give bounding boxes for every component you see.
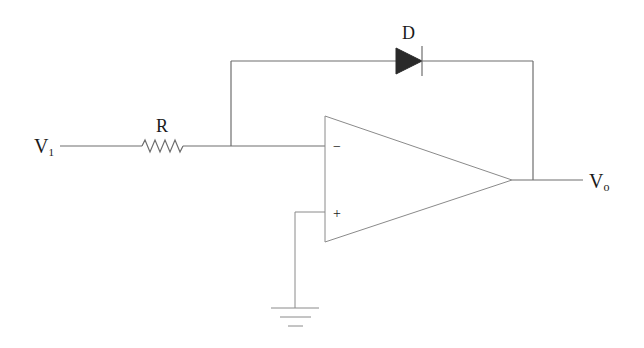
op-amp [325, 116, 512, 242]
diode-label: D [402, 23, 415, 43]
resistor-label: R [156, 116, 168, 136]
noninverting-input-sign: + [333, 206, 341, 221]
output-label-vo: Vo [589, 170, 609, 194]
circuit-diagram: V1 R D − + Vo [0, 0, 644, 348]
resistor-r [142, 140, 183, 152]
inverting-input-sign: − [333, 139, 341, 154]
diode-d [396, 48, 422, 74]
ground-icon [271, 308, 319, 326]
input-label-v1: V1 [34, 135, 54, 158]
